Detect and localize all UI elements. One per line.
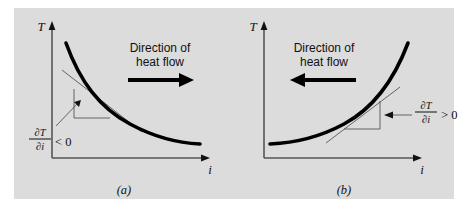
- panel-caption-b: (b): [337, 183, 352, 197]
- y-axis-label-b: T: [249, 19, 257, 34]
- slope-numerator-a: ∂T: [34, 127, 46, 138]
- heat-flow-label-line1-b: Direction of: [294, 41, 355, 55]
- x-axis-label-b: i: [420, 162, 424, 177]
- figure-panel-background: T i ∂T: [14, 8, 454, 199]
- slope-annotation-a: ∂T ∂i < 0: [29, 127, 71, 152]
- slope-relation-b: > 0: [441, 108, 457, 122]
- heat-flow-arrow-left-icon-b: [290, 73, 356, 87]
- slope-denominator-a: ∂i: [36, 141, 44, 152]
- y-axis-b: [261, 21, 268, 158]
- diagram-panel-a: T i ∂T: [14, 8, 234, 199]
- x-axis-b: [264, 155, 422, 162]
- slope-numerator-b: ∂T: [420, 100, 432, 111]
- x-axis-a: [52, 155, 210, 162]
- heat-flow-label-line1-a: Direction of: [130, 41, 191, 55]
- panel-caption-a: (a): [117, 183, 132, 197]
- slope-denominator-b: ∂i: [422, 114, 430, 125]
- slope-relation-a: < 0: [55, 135, 71, 149]
- y-axis-label-a: T: [37, 19, 45, 34]
- heat-flow-arrow-right-icon-a: [128, 73, 194, 87]
- slope-annotation-b: ∂T ∂i > 0: [415, 100, 457, 125]
- heat-flow-label-line2-a: heat flow: [136, 55, 184, 69]
- heat-flow-label-line2-b: heat flow: [300, 55, 348, 69]
- annotation-leader-b: [384, 112, 412, 119]
- x-axis-label-a: i: [208, 162, 212, 177]
- diagram-panel-b: T i ∂T: [234, 8, 454, 199]
- figure-root: T i ∂T: [0, 0, 468, 207]
- annotation-leader-a: [56, 100, 81, 126]
